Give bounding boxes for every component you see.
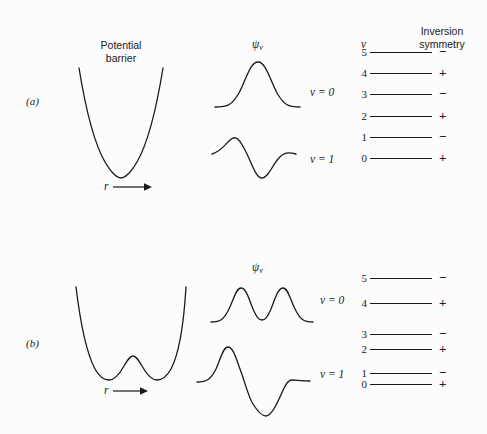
wave-label-b-v1: v = 1 (320, 368, 344, 380)
figure-canvas: (a) Potential barrier r ψv v = 0 v = 1 v… (0, 0, 487, 434)
level-line (370, 334, 432, 335)
level-number: 3 (355, 328, 367, 340)
energy-level-row: 2 + (355, 343, 455, 355)
level-symmetry-sign: − (439, 272, 446, 284)
energy-level-row: 0 + (355, 378, 455, 390)
level-line (370, 349, 432, 350)
level-number: 2 (355, 343, 367, 355)
level-number: 5 (355, 272, 367, 284)
level-symmetry-sign: + (439, 343, 446, 355)
level-symmetry-sign: + (439, 297, 446, 309)
level-line (370, 303, 432, 304)
level-line (370, 278, 432, 279)
level-number: 4 (355, 297, 367, 309)
level-number: 0 (355, 378, 367, 390)
wavefunction-b-v1 (197, 347, 310, 416)
level-line (370, 373, 432, 374)
energy-level-row: 5 − (355, 272, 455, 284)
level-symmetry-sign: + (439, 378, 446, 390)
energy-level-row: 3 − (355, 328, 455, 340)
level-line (370, 384, 432, 385)
level-symmetry-sign: − (439, 328, 446, 340)
energy-level-row: 4 + (355, 297, 455, 309)
